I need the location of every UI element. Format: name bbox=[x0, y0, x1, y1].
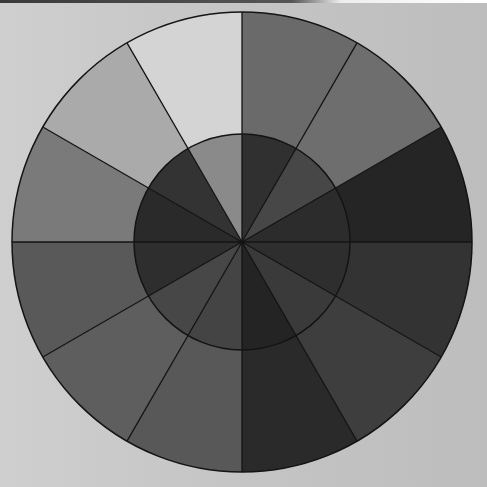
color-wheel bbox=[0, 0, 487, 487]
